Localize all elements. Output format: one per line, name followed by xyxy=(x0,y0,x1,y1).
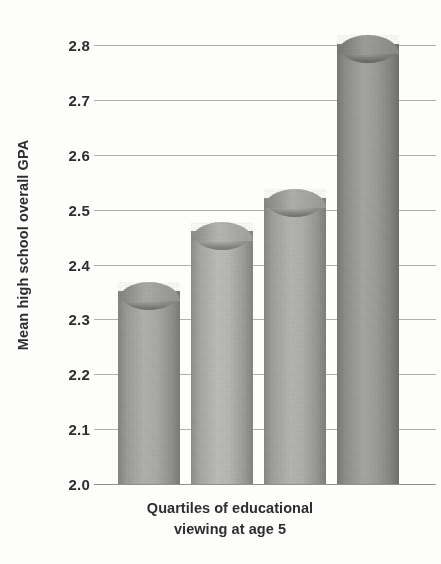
bar[interactable] xyxy=(264,189,326,484)
bar-body xyxy=(337,44,399,484)
y-axis-title: Mean high school overall GPA xyxy=(0,0,46,490)
bar[interactable] xyxy=(118,282,180,484)
bar-cap xyxy=(191,222,253,241)
y-tick-label: 2.4 xyxy=(69,256,90,273)
bar-body xyxy=(191,231,253,484)
y-tick-label: 2.2 xyxy=(69,366,90,383)
y-tick-label: 2.7 xyxy=(69,91,90,108)
bar-cap xyxy=(337,35,399,54)
x-axis-title-line1: Quartiles of educational xyxy=(147,500,313,516)
bar[interactable] xyxy=(337,35,399,484)
y-axis-title-text: Mean high school overall GPA xyxy=(15,140,31,350)
y-tick-label: 2.8 xyxy=(69,37,90,54)
y-tick-label: 2.0 xyxy=(69,476,90,493)
plot-area xyxy=(94,0,441,564)
bar-body xyxy=(264,198,326,484)
x-axis-title: Quartiles of educational viewing at age … xyxy=(60,498,400,539)
y-tick-label: 2.6 xyxy=(69,146,90,163)
bar-body xyxy=(118,291,180,484)
bar-series xyxy=(94,0,441,564)
y-tick-label: 2.3 xyxy=(69,311,90,328)
bar-chart-figure: Mean high school overall GPA 2.82.72.62.… xyxy=(0,0,441,564)
y-tick-label: 2.1 xyxy=(69,421,90,438)
y-tick-label: 2.5 xyxy=(69,201,90,218)
bar[interactable] xyxy=(191,222,253,484)
x-axis-title-line2: viewing at age 5 xyxy=(60,519,400,540)
y-axis-tick-labels: 2.82.72.62.52.42.32.22.12.0 xyxy=(46,0,94,564)
bar-cap xyxy=(264,189,326,208)
bar-cap xyxy=(118,282,180,301)
